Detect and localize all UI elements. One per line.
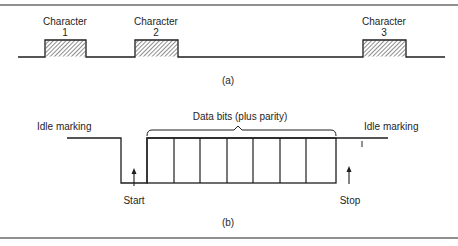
idle-marking-left-label: Idle marking xyxy=(37,121,91,132)
character-1-number: 1 xyxy=(62,27,68,38)
idle-marking-right-label: Idle marking xyxy=(364,121,418,132)
async-transmission-figure: Character 1 Character 2 Character 3 (a) xyxy=(0,0,458,246)
data-bit-dividers xyxy=(174,138,306,183)
character-3-label: Character xyxy=(362,16,407,27)
panel-b-caption: (b) xyxy=(222,217,234,228)
data-bits-box xyxy=(147,138,336,183)
panel-a: Character 1 Character 2 Character 3 (a) xyxy=(18,16,445,86)
stop-arrow-icon xyxy=(347,166,352,184)
character-1-label: Character xyxy=(43,16,88,27)
start-label: Start xyxy=(123,195,144,206)
panel-a-caption: (a) xyxy=(222,75,234,86)
character-2-pulse xyxy=(136,41,178,57)
character-2-number: 2 xyxy=(153,27,159,38)
character-1-pulse xyxy=(46,41,86,57)
data-bits-brace xyxy=(147,126,336,136)
character-2-label: Character xyxy=(134,16,179,27)
data-bits-label: Data bits (plus parity) xyxy=(193,111,287,122)
character-3-pulse xyxy=(364,41,406,57)
stop-label: Stop xyxy=(340,195,361,206)
panel-b: Idle marking Idle marking Data bits (plu… xyxy=(37,111,418,228)
character-3-number: 3 xyxy=(381,27,387,38)
